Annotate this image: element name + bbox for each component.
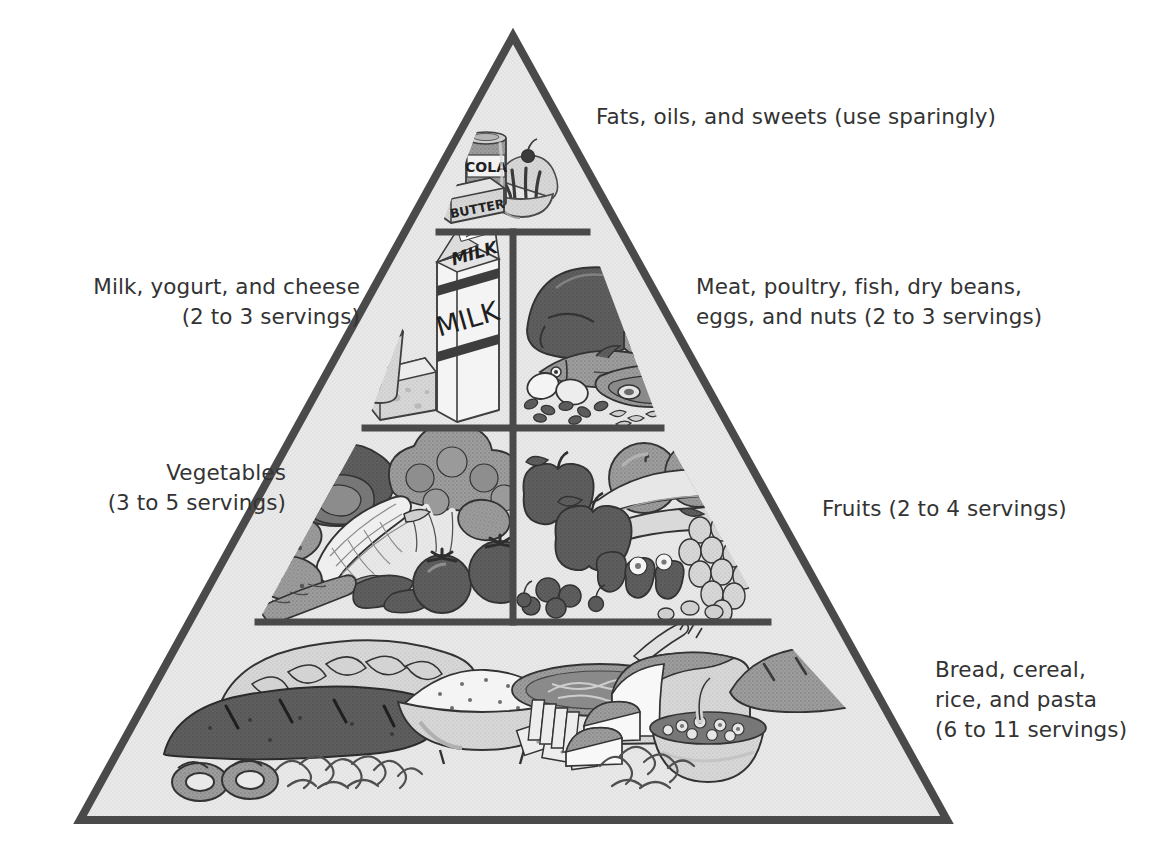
label-meat-poultry-fish: Meat, poultry, fish, dry beans, eggs, an… xyxy=(696,272,1096,332)
label-vegetables: Vegetables (3 to 5 servings) xyxy=(20,458,286,518)
label-fruits: Fruits (2 to 4 servings) xyxy=(822,494,1067,524)
label-fats-oils-sweets: Fats, oils, and sweets (use sparingly) xyxy=(596,102,996,132)
food-pyramid-diagram: COLA BUTTER xyxy=(0,0,1166,855)
label-milk-yogurt-cheese: Milk, yogurt, and cheese (2 to 3 serving… xyxy=(20,272,360,332)
label-bread-cereal-rice-pasta: Bread, cereal, rice, and pasta (6 to 11 … xyxy=(935,655,1127,745)
strawberries-icon xyxy=(597,552,684,599)
